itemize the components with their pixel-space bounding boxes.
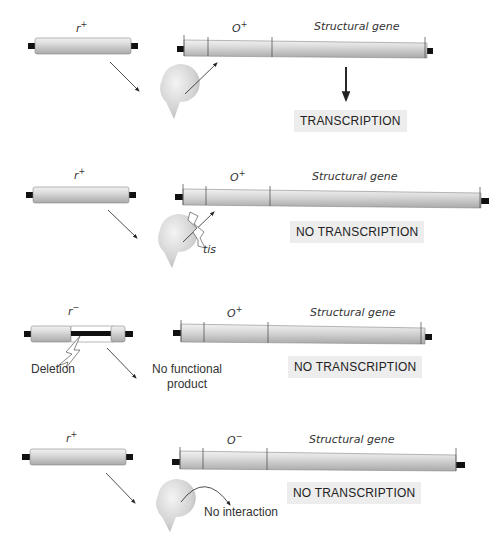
operator-label: O+ [232, 20, 247, 35]
regulator-label: r+ [74, 167, 85, 182]
regulator-gene [28, 38, 138, 54]
panel-1 [28, 35, 433, 119]
result-box: NO TRANSCRIPTION [288, 356, 422, 378]
structural-gene-label: Structural gene [314, 20, 399, 33]
operator-label: O− [227, 432, 242, 447]
regulator-label: r− [68, 303, 79, 318]
repressor-icon [156, 479, 196, 532]
deletion-segment [71, 331, 111, 336]
no-interaction-label: No interaction [204, 505, 278, 519]
regulator-label: r+ [76, 20, 87, 35]
arrow-to-repressor [110, 62, 139, 91]
structural-gene-label: Structural gene [312, 170, 397, 183]
result-box: NO TRANSCRIPTION [287, 482, 421, 504]
no-functional-product-label: No functionalproduct [142, 362, 232, 392]
result-box: NO TRANSCRIPTION [290, 221, 424, 243]
result-box: TRANSCRIPTION [294, 110, 407, 132]
repressor-icon [160, 64, 200, 119]
deletion-label: Deletion [31, 362, 75, 376]
operon-diagram [0, 0, 501, 547]
structural-gene-label: Structural gene [309, 433, 394, 446]
operator-label: O+ [227, 305, 242, 320]
operon-rod [177, 35, 433, 58]
tis-label: tis [203, 243, 216, 256]
structural-gene-label: Structural gene [310, 306, 395, 319]
operator-label: O+ [230, 169, 245, 184]
regulator-label: r+ [66, 430, 77, 445]
